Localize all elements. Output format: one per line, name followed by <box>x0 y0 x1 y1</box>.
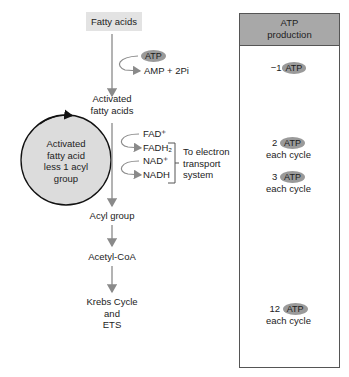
atp-oval: ATP <box>282 62 307 74</box>
ets-note: To electron transport system <box>183 146 229 181</box>
label-line: and <box>72 308 152 320</box>
fatty-acids-box: Fatty acids <box>86 12 142 31</box>
label-line: system <box>183 169 229 181</box>
atp-oval: ATP <box>283 303 308 315</box>
label-line: transport <box>183 158 229 170</box>
atp-amount: 12 <box>269 303 280 314</box>
header-line: ATP <box>240 17 339 29</box>
fadh2-label: FADH₂ <box>143 142 172 154</box>
label-line: fatty acids <box>82 105 142 117</box>
label-line: ETS <box>72 319 152 331</box>
atp-entry-activation: −1ATP <box>239 62 338 74</box>
label-line: Activated <box>82 93 142 105</box>
atp-note: each cycle <box>239 183 338 195</box>
acyl-group-label: Acyl group <box>72 210 152 222</box>
atp-amount: 2 <box>272 137 277 148</box>
nad-label: NAD⁺ <box>143 155 168 167</box>
label-line: Krebs Cycle <box>72 296 152 308</box>
atp-oval: ATP <box>280 137 305 149</box>
acetyl-coa-label: Acetyl-CoA <box>72 251 152 263</box>
cycle-label: Activated fatty acid less 1 acyl group <box>26 138 106 184</box>
atp-amount: −1 <box>271 62 282 73</box>
nadh-label: NADH <box>143 169 170 181</box>
atp-note: each cycle <box>239 315 338 327</box>
activated-fatty-acids-label: Activated fatty acids <box>82 93 142 116</box>
fad-label: FAD⁺ <box>143 128 166 140</box>
atp-entry-nadh: 3 ATP each cycle <box>239 171 338 195</box>
amp-output-label: AMP + 2Pi <box>144 65 189 77</box>
atp-amount: 3 <box>272 171 277 182</box>
label-line: group <box>26 173 106 185</box>
atp-note: each cycle <box>239 149 338 161</box>
panel-header: ATP production <box>240 14 339 46</box>
label-line: To electron <box>183 146 229 158</box>
krebs-label: Krebs Cycle and ETS <box>72 296 152 331</box>
label-line: fatty acid <box>26 150 106 162</box>
label-line: Activated <box>26 138 106 150</box>
header-line: production <box>240 29 339 41</box>
label-line: less 1 acyl <box>26 161 106 173</box>
atp-oval: ATP <box>280 171 305 183</box>
atp-entry-krebs: 12 ATP each cycle <box>239 303 338 327</box>
atp-entry-fadh2: 2 ATP each cycle <box>239 137 338 161</box>
atp-input-oval: ATP <box>141 50 166 62</box>
